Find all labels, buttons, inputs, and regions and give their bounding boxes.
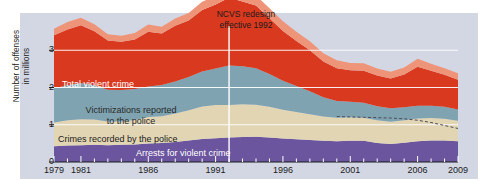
violent-crime-area-chart: Number of offenses in millions 0123 1979…	[0, 0, 486, 193]
x-tick-label: 2009	[448, 165, 468, 175]
x-tick-label: 1979	[44, 165, 64, 175]
series-label-crimes-recorded: Crimes recorded by the police	[58, 134, 178, 145]
annotation-line2: effective 1992	[176, 20, 316, 31]
x-tick-label: 1996	[273, 165, 293, 175]
x-tick-label: 2006	[408, 165, 428, 175]
series-label-total-violent-crime: Total violent crime	[62, 79, 134, 90]
series-label-victimizations-reported: Victimizations reported to the police	[56, 105, 206, 127]
y-tick-label: 3	[42, 44, 54, 54]
ncvs-redesign-annotation: NCVS redesign effective 1992	[176, 9, 316, 31]
x-tick-label: 2001	[340, 165, 360, 175]
series-label-arrests: Arrests for violent crime	[136, 148, 231, 159]
y-axis-label: Number of offenses in millions	[11, 23, 31, 109]
x-tick-label: 1991	[206, 165, 226, 175]
x-tick-label: 1986	[138, 165, 158, 175]
y-axis-label-line2: in millions	[21, 23, 31, 109]
y-tick-label: 2	[42, 82, 54, 92]
y-axis-label-line1: Number of offenses	[11, 23, 21, 109]
victimizations-label-line2: to the police	[56, 116, 206, 127]
annotation-line1: NCVS redesign	[176, 9, 316, 20]
victimizations-label-line1: Victimizations reported	[56, 105, 206, 116]
y-tick-label: 1	[42, 119, 54, 129]
x-tick-label: 1981	[71, 165, 91, 175]
